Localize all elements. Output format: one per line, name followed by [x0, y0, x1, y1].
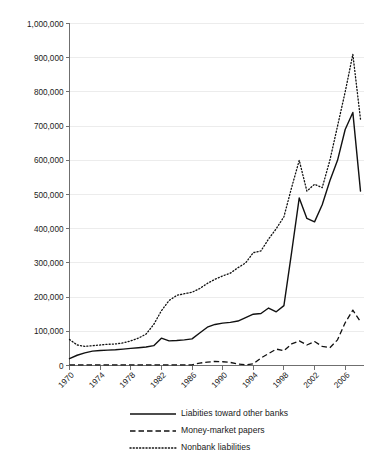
data-series-group [70, 54, 361, 365]
y-axis-tick-label: 600,000 [34, 156, 64, 165]
x-axis-tick-label: 1982 [149, 370, 169, 390]
y-axis-tick-label: 800,000 [34, 88, 64, 97]
x-axis-tick-label: 1970 [57, 370, 77, 390]
x-tick-marks-group [70, 366, 346, 370]
y-axis-tick-label: 200,000 [34, 293, 64, 302]
x-axis-tick-label: 1994 [240, 370, 260, 390]
y-tick-marks-group [66, 24, 70, 366]
y-axis-tick-label: 400,000 [34, 225, 64, 234]
y-axis-tick-label: 300,000 [34, 259, 64, 268]
y-axis-tick-label: 700,000 [34, 122, 64, 131]
chart-legend: Liabities toward other banksMoney-market… [130, 408, 288, 452]
legend-label: Nonbank liabilities [181, 442, 250, 452]
gridlines-group [70, 24, 364, 332]
x-axis-tick-label: 2006 [332, 370, 352, 390]
line-chart: 0100,000200,000300,000400,000500,000600,… [0, 0, 390, 464]
series-line-solid [70, 112, 361, 358]
x-axis-tick-label: 1978 [118, 370, 138, 390]
y-axis-tick-label: 1,000,000 [27, 20, 64, 29]
y-axis-tick-label: 0 [59, 362, 64, 371]
x-axis-labels-group: 1970197419781982198619901994199820022006 [57, 370, 352, 390]
x-axis-tick-label: 1974 [87, 370, 107, 390]
series-line-dotted [70, 54, 361, 346]
chart-page: 0100,000200,000300,000400,000500,000600,… [0, 0, 390, 464]
x-axis-tick-label: 1998 [271, 370, 291, 390]
legend-label: Liabities toward other banks [181, 408, 288, 418]
y-axis-labels-group: 0100,000200,000300,000400,000500,000600,… [27, 20, 64, 371]
x-axis-tick-label: 1990 [210, 370, 230, 390]
y-axis-tick-label: 900,000 [34, 54, 64, 63]
x-axis-tick-label: 2002 [302, 370, 322, 390]
x-axis-tick-label: 1986 [179, 370, 199, 390]
y-axis-tick-label: 500,000 [34, 191, 64, 200]
legend-label: Money-market papers [181, 425, 265, 435]
y-axis-tick-label: 100,000 [34, 327, 64, 336]
series-line-dashed [70, 310, 361, 365]
